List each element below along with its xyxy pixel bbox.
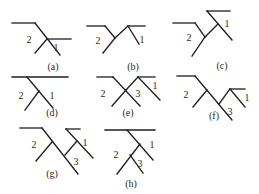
branch-label: 2: [96, 35, 101, 46]
panel-c: 21(c): [173, 11, 232, 72]
branch-label: 1: [140, 34, 145, 45]
branch-label: 1: [245, 92, 250, 103]
branch-line: [35, 39, 47, 53]
branch-label: 2: [114, 149, 119, 160]
branch-label: 1: [83, 137, 88, 148]
branch-label: 3: [138, 158, 143, 169]
branch-label: 2: [32, 139, 37, 150]
branch-label: 2: [184, 89, 189, 100]
branch-line: [193, 90, 207, 107]
panel-caption: (f): [209, 110, 219, 122]
branch-label: 3: [136, 88, 141, 99]
branch-line: [128, 26, 139, 44]
branch-label: 1: [225, 18, 230, 29]
branch-line: [105, 26, 115, 38]
branch-line: [230, 89, 245, 107]
panel-d: 21(d): [12, 77, 68, 119]
panel-b: 21(b): [87, 26, 145, 73]
branch-label: 2: [187, 32, 192, 43]
branch-line: [219, 89, 230, 104]
branch-label: 1: [54, 42, 59, 53]
panel-caption: (d): [46, 107, 58, 119]
branch-line: [205, 24, 218, 37]
branch-label: 1: [153, 80, 158, 91]
panel-f: 231(f): [177, 76, 250, 122]
branch-label: 3: [228, 106, 233, 117]
branch-line: [65, 141, 77, 155]
branch-label: 2: [101, 88, 106, 99]
branch-line: [195, 23, 205, 37]
branch-line: [112, 90, 126, 106]
panel-caption: (a): [47, 61, 58, 73]
tree-diagram-figure: 21(a)21(b)21(c)21(d)231(e)231(f)213(g)12…: [0, 0, 259, 194]
panel-caption: (c): [216, 60, 227, 72]
branch-label: 2: [27, 34, 32, 45]
panel-caption: (b): [127, 61, 139, 73]
panel-caption: (e): [122, 107, 133, 119]
branch-line: [36, 142, 52, 161]
branch-line: [25, 91, 39, 110]
panel-h: 123(h): [105, 130, 155, 190]
branch-label: 2: [19, 90, 24, 101]
branch-label: 3: [74, 156, 79, 167]
branch-line: [66, 129, 93, 158]
branch-label: 1: [150, 139, 155, 150]
panel-e: 231(e): [97, 77, 160, 119]
panel-caption: (g): [46, 168, 58, 180]
panel-a: 21(a): [12, 23, 71, 73]
branch-line: [115, 26, 128, 38]
branch-line: [103, 38, 115, 53]
panel-g: 213(g): [20, 128, 93, 180]
branch-label: 1: [50, 90, 55, 101]
branch-line: [192, 37, 205, 56]
panel-caption: (h): [125, 178, 137, 190]
